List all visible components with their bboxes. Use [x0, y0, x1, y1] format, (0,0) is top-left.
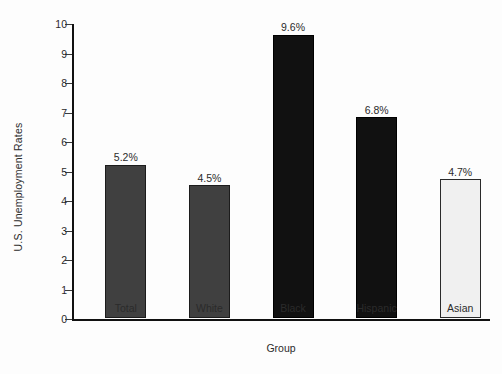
y-axis-title: U.S. Unemployment Rates — [0, 0, 36, 374]
y-tick-label: 1 — [61, 284, 67, 295]
x-category-label-white: White — [196, 303, 223, 314]
bar-value-label-total: 5.2% — [114, 152, 138, 163]
plot-area: 012345678910 5.2%4.5%9.6%6.8%4.7% — [72, 24, 490, 320]
x-category-label-asian: Asian — [447, 303, 473, 314]
bar-hispanic[interactable]: 6.8% — [356, 117, 397, 318]
y-tick-label: 0 — [61, 314, 67, 325]
y-tick-label: 3 — [61, 225, 67, 236]
y-tick-label: 8 — [61, 78, 67, 89]
bar-value-label-asian: 4.7% — [448, 167, 472, 178]
x-axis-title: Group — [72, 343, 490, 354]
bar-value-label-white: 4.5% — [197, 173, 221, 184]
x-category-label-total: Total — [115, 303, 137, 314]
y-tick-label: 5 — [61, 166, 67, 177]
y-axis-line — [72, 24, 74, 321]
x-axis-line — [72, 319, 490, 321]
unemployment-bar-chart: U.S. Unemployment Rates 012345678910 5.2… — [0, 0, 502, 374]
bar-asian[interactable]: 4.7% — [440, 179, 481, 318]
bar-black[interactable]: 9.6% — [273, 35, 314, 318]
bar-value-label-hispanic: 6.8% — [365, 105, 389, 116]
y-tick-label: 9 — [61, 48, 67, 59]
bar-value-label-black: 9.6% — [281, 22, 305, 33]
y-tick-label: 4 — [61, 196, 67, 207]
y-tick-label: 6 — [61, 137, 67, 148]
y-tick-label: 7 — [61, 107, 67, 118]
bar-total[interactable]: 5.2% — [105, 165, 146, 318]
y-tick-label: 10 — [55, 19, 67, 30]
x-category-label-black: Black — [280, 303, 306, 314]
bar-white[interactable]: 4.5% — [189, 185, 230, 318]
y-tick-label: 2 — [61, 255, 67, 266]
x-category-label-hispanic: Hispanic — [356, 303, 396, 314]
